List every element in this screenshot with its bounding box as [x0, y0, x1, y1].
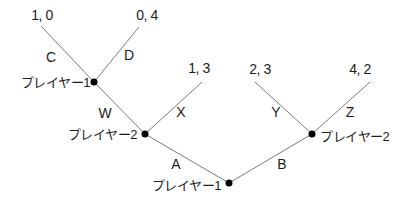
payoff-label-x: 1, 3	[188, 60, 210, 76]
payoff-label-z: 4, 2	[349, 61, 371, 77]
branch-line-z	[312, 82, 370, 134]
node-dot-right-player2	[309, 131, 316, 138]
action-label-b: B	[277, 156, 286, 172]
action-label-y: Y	[271, 104, 281, 120]
branch-line-b	[229, 134, 312, 183]
branch-line-y	[255, 82, 312, 134]
node-dot-left-player2	[142, 131, 149, 138]
action-label-z: Z	[346, 104, 355, 120]
node-label-top-player1: プレイヤー1	[21, 75, 91, 90]
action-label-a: A	[171, 156, 181, 172]
node-label-right-player2: プレイヤー2	[320, 129, 390, 144]
branch-line-x	[145, 82, 202, 134]
payoff-label-c: 1, 0	[31, 7, 53, 23]
branch-line-a	[145, 134, 229, 183]
node-dot-root-player1	[226, 180, 233, 187]
game-tree-svg: 1, 0 0, 4 1, 3 2, 3 4, 2 C D W X Y Z A B…	[0, 0, 405, 201]
node-dot-top-player1	[91, 79, 98, 86]
action-label-x: X	[176, 104, 186, 120]
branch-lines	[41, 26, 370, 183]
node-label-root-player1: プレイヤー1	[152, 178, 222, 193]
payoff-label-y: 2, 3	[249, 61, 271, 77]
node-label-left-player2: プレイヤー2	[68, 127, 138, 142]
game-tree-diagram: 1, 0 0, 4 1, 3 2, 3 4, 2 C D W X Y Z A B…	[0, 0, 405, 201]
labels: 1, 0 0, 4 1, 3 2, 3 4, 2 C D W X Y Z A B…	[21, 7, 390, 193]
payoff-label-d: 0, 4	[136, 7, 158, 23]
action-label-w: W	[98, 105, 112, 121]
action-label-d: D	[124, 47, 134, 63]
action-label-c: C	[46, 49, 56, 65]
